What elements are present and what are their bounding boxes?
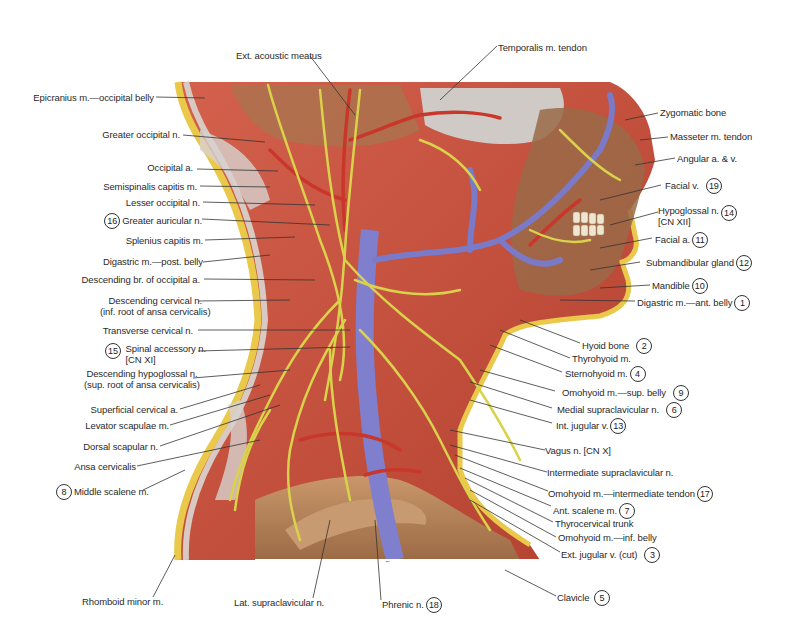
label-omohyoid-inf-belly: Omohyoid m.—inf. belly xyxy=(558,532,657,543)
label-submandibular-gland: Submandibular gland12 xyxy=(646,255,754,271)
label-ansa-cervicalis: Ansa cervicalis xyxy=(74,461,136,472)
label-vagus-n: Vagus n. [CN X] xyxy=(545,445,611,456)
label-greater-occipital-n: Greater occipital n. xyxy=(102,129,180,140)
label-digastric-ant-belly: Digastric m.—ant. belly1 xyxy=(637,295,752,311)
label-ant-scalene: Ant. scalene m.7 xyxy=(553,503,637,519)
label-hypoglossal-n: Hypoglossal n.[CN XII]14 xyxy=(658,205,739,227)
label-levator-scapulae: Levator scapulae m. xyxy=(85,420,169,431)
label-hyoid-bone: Hyoid bone 2 xyxy=(582,338,654,354)
number-badge: 11 xyxy=(692,232,708,248)
number-badge: 8 xyxy=(56,484,72,500)
number-badge: 19 xyxy=(706,178,722,194)
label-intermediate-supraclavicular-n: Intermediate supraclavicular n. xyxy=(547,467,673,478)
label-phrenic-n: Phrenic n.18 xyxy=(382,597,444,613)
label-int-jugular-v: Int. jugular v.13 xyxy=(556,418,628,434)
number-badge: 17 xyxy=(697,486,713,502)
label-medial-supraclavicular-n: Medial supraclavicular n. 6 xyxy=(557,402,684,418)
label-dorsal-scapular-n: Dorsal scapular n. xyxy=(83,441,158,452)
label-semispinalis-capitis: Semispinalis capitis m. xyxy=(103,181,197,192)
number-badge: 12 xyxy=(736,255,752,271)
label-descending-hypoglossal-n: Descending hypoglossal n.(sup. root of a… xyxy=(84,368,200,390)
number-badge: 14 xyxy=(721,205,737,221)
anatomy-figure: Ext. acoustic meatus Temporalis m. tendo… xyxy=(0,0,785,639)
label-omohyoid-sup-belly: Omohyoid m.—sup. belly 9 xyxy=(562,385,691,401)
label-zygomatic-bone: Zygomatic bone xyxy=(660,107,726,118)
label-thyrohyoid: Thyrohyoid m. xyxy=(572,353,631,364)
number-badge: 2 xyxy=(636,338,652,354)
number-badge: 7 xyxy=(619,503,635,519)
number-badge: 6 xyxy=(666,402,682,418)
label-middle-scalene: 8Middle scalene m. xyxy=(54,484,149,500)
label-splenius-capitis: Splenius capitis m. xyxy=(126,235,203,246)
number-badge: 10 xyxy=(692,278,708,294)
label-facial-a: Facial a.11 xyxy=(655,232,710,248)
label-rhomboid-minor: Rhomboid minor m. xyxy=(82,596,163,607)
label-ext-acoustic-meatus: Ext. acoustic meatus xyxy=(236,50,322,61)
number-badge: 15 xyxy=(105,343,121,359)
label-spinal-accessory-n: 15 Spinal accessory n.[CN XI] xyxy=(103,343,206,365)
label-angular-av: Angular a. & v. xyxy=(677,153,737,164)
label-digastric-post-belly: Digastric m.—post. belly xyxy=(103,256,203,267)
number-badge: 4 xyxy=(630,366,646,382)
label-epicranius: Epicranius m.—occipital belly xyxy=(33,92,154,103)
number-badge: 13 xyxy=(610,418,626,434)
label-occipital-a: Occipital a. xyxy=(147,162,193,173)
number-badge: 9 xyxy=(673,385,689,401)
label-greater-auricular-n: 16Greater auricular n. xyxy=(102,213,202,229)
label-transverse-cervical-n: Transverse cervical n. xyxy=(103,325,193,336)
label-omohyoid-intermediate-tendon: Omohyoid m.—intermediate tendon17 xyxy=(548,486,715,502)
number-badge: 3 xyxy=(644,547,660,563)
label-thyrocervical-trunk: Thyrocervical trunk xyxy=(555,518,633,529)
label-ext-jugular-v: Ext. jugular v. (cut) 3 xyxy=(561,547,662,563)
label-temporalis-tendon: Temporalis m. tendon xyxy=(498,42,587,53)
label-descending-br-occipital-a: Descending br. of occipital a. xyxy=(82,274,200,285)
label-mandible: Mandible10 xyxy=(652,278,710,294)
label-lesser-occipital-n: Lesser occipital n. xyxy=(126,197,200,208)
number-badge: 18 xyxy=(426,597,442,613)
label-clavicle: Clavicle 5 xyxy=(557,590,612,606)
label-facial-v: Facial v. 19 xyxy=(665,178,724,194)
number-badge: 1 xyxy=(734,295,750,311)
label-descending-cervical-n: Descending cervical n.(inf. root of ansa… xyxy=(100,295,211,317)
label-superficial-cervical-a: Superficial cervical a. xyxy=(91,404,178,415)
number-badge: 5 xyxy=(594,590,610,606)
label-sternohyoid: Sternohyoid m.4 xyxy=(565,366,648,382)
label-masseter-tendon: Masseter m. tendon xyxy=(670,131,752,142)
number-badge: 16 xyxy=(104,213,120,229)
label-lat-supraclavicular-n: Lat. supraclavicular n. xyxy=(234,597,324,608)
